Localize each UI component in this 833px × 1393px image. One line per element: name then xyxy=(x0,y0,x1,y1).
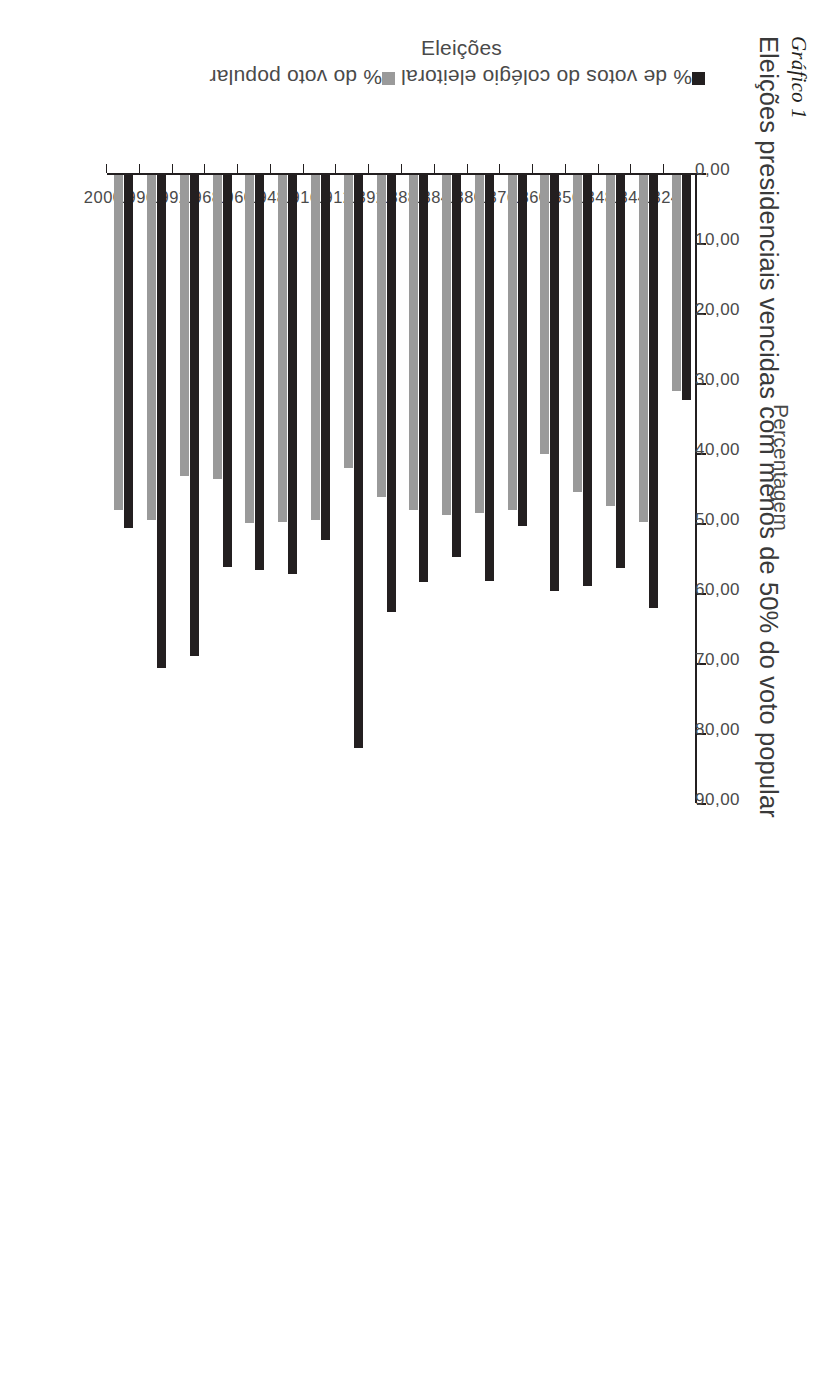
bar-popular-vote xyxy=(147,175,156,520)
bar-popular-vote xyxy=(114,175,123,510)
bar-electoral-college xyxy=(518,175,527,526)
figure-label: Gráfico 1 xyxy=(786,36,811,1036)
bar-series-container xyxy=(107,175,697,803)
value-tick-label: 60,00 xyxy=(695,580,740,600)
bar-electoral-college xyxy=(452,175,461,557)
bar-electoral-college xyxy=(583,175,592,586)
bar-electoral-college xyxy=(354,175,363,748)
bar-popular-vote xyxy=(442,175,451,515)
bar-popular-vote xyxy=(180,175,189,476)
value-tick-label: 50,00 xyxy=(695,510,740,530)
category-tick xyxy=(630,164,631,173)
bar-electoral-college xyxy=(616,175,625,568)
category-tick xyxy=(598,164,599,173)
bar-popular-vote xyxy=(344,175,353,468)
bar-popular-vote xyxy=(639,175,648,522)
value-tick-label: 80,00 xyxy=(695,720,740,740)
chart-figure: Gráfico 1 Eleições presidenciais vencida… xyxy=(0,0,833,1393)
value-axis-title: Percentagem xyxy=(769,404,793,531)
bar-electoral-college xyxy=(551,175,560,591)
category-tick xyxy=(172,164,173,173)
category-tick xyxy=(335,164,336,173)
bar-electoral-college xyxy=(124,175,133,528)
legend-label: % do voto popular xyxy=(209,65,382,89)
category-axis-title: Eleições xyxy=(421,36,502,60)
bar-electoral-college xyxy=(256,175,265,570)
bar-popular-vote xyxy=(377,175,386,497)
value-tick-label: 0,00 xyxy=(695,160,730,180)
bar-electoral-college xyxy=(223,175,232,567)
category-tick xyxy=(532,164,533,173)
category-tick xyxy=(499,164,500,173)
bar-electoral-college xyxy=(190,175,199,656)
category-tick xyxy=(565,164,566,173)
bar-popular-vote xyxy=(672,175,681,391)
bar-popular-vote xyxy=(278,175,287,522)
category-tick xyxy=(303,164,304,173)
bar-popular-vote xyxy=(213,175,222,479)
bar-popular-vote xyxy=(573,175,582,492)
category-tick xyxy=(106,164,107,173)
category-tick xyxy=(204,164,205,173)
category-tick xyxy=(237,164,238,173)
value-tick-label: 20,00 xyxy=(695,300,740,320)
bar-popular-vote xyxy=(606,175,615,506)
bar-electoral-college xyxy=(157,175,166,668)
rotated-figure-wrapper: Gráfico 1 Eleições presidenciais vencida… xyxy=(0,0,833,1393)
category-tick xyxy=(270,164,271,173)
category-tick xyxy=(467,164,468,173)
bar-electoral-college xyxy=(649,175,658,608)
bar-popular-vote xyxy=(475,175,484,513)
bar-popular-vote xyxy=(508,175,517,510)
value-tick-label: 10,00 xyxy=(695,230,740,250)
value-tick-label: 30,00 xyxy=(695,370,740,390)
category-tick xyxy=(368,164,369,173)
legend-swatch-icon xyxy=(692,72,705,85)
category-tick xyxy=(139,164,140,173)
value-tick-label: 40,00 xyxy=(695,440,740,460)
chart-title: Eleições presidenciais vencidas com meno… xyxy=(754,36,783,1036)
bar-popular-vote xyxy=(311,175,320,520)
legend-swatch-icon xyxy=(382,72,395,85)
title-block: Gráfico 1 Eleições presidenciais vencida… xyxy=(754,36,811,1036)
category-tick xyxy=(434,164,435,173)
plot-area: 0,0010,0020,0030,0040,0050,0060,0070,008… xyxy=(107,173,697,803)
category-tick xyxy=(663,164,664,173)
bar-popular-vote xyxy=(541,175,550,454)
category-tick xyxy=(401,164,402,173)
bar-electoral-college xyxy=(485,175,494,581)
bar-electoral-college xyxy=(288,175,297,574)
bar-electoral-college xyxy=(682,175,691,400)
bar-popular-vote xyxy=(246,175,255,523)
bar-electoral-college xyxy=(321,175,330,540)
value-tick-label: 70,00 xyxy=(695,650,740,670)
legend-label: % de votos do colégio eleitoral xyxy=(401,65,692,89)
bar-electoral-college xyxy=(387,175,396,612)
value-tick-label: 90,00 xyxy=(695,790,740,810)
bar-popular-vote xyxy=(409,175,418,510)
bar-electoral-college xyxy=(419,175,428,582)
